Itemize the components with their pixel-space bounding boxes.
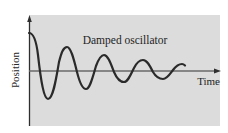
y-axis-label: Position <box>9 51 21 88</box>
x-axis-label: Time <box>197 75 220 87</box>
damped-oscillator-figure: Damped oscillator Position Time <box>0 0 228 133</box>
figure-title: Damped oscillator <box>83 34 168 47</box>
